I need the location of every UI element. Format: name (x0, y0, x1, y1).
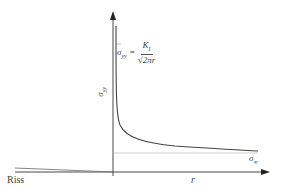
crack-line (15, 168, 113, 172)
formula-fraction: KI √2πr (138, 40, 155, 65)
x-axis-label: r (191, 174, 195, 185)
far-field-stress-label: σ∞ (249, 153, 258, 165)
y-axis-arrow-icon (110, 11, 116, 20)
formula-denominator: √2πr (138, 55, 155, 65)
crack-label: Riss (7, 174, 24, 185)
stress-diagram-canvas (0, 0, 289, 188)
stress-formula: σyy = KI √2πr (117, 40, 155, 65)
formula-numerator: KI (141, 40, 153, 55)
formula-equals: = (130, 47, 135, 57)
formula-lhs: σyy (117, 47, 127, 59)
y-axis-label: σyy (95, 87, 107, 97)
x-axis-arrow-icon (261, 169, 270, 175)
